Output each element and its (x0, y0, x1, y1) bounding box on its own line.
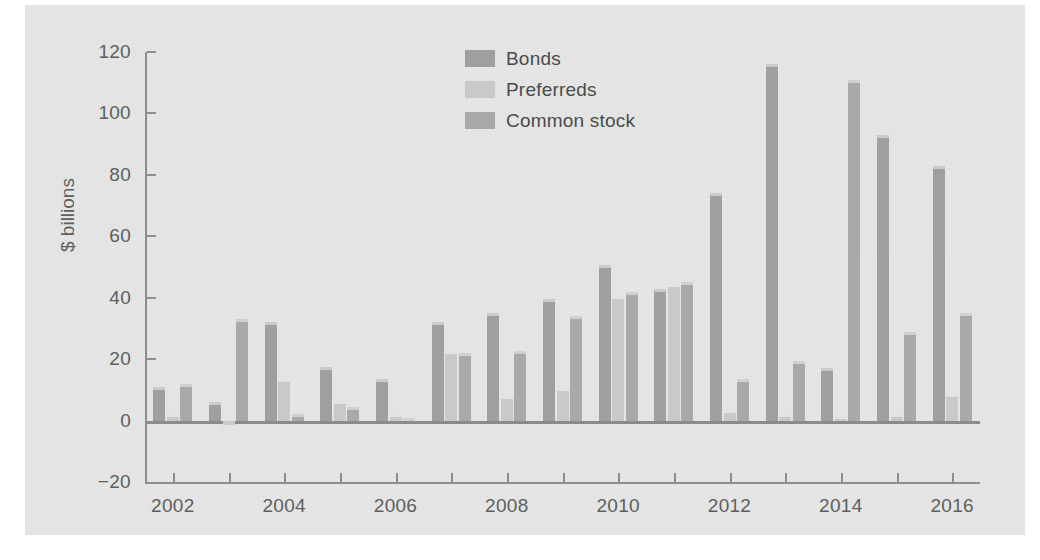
bar-bonds-2015 (877, 135, 889, 421)
x-tick-mark (396, 473, 398, 482)
legend-label-common-stock: Common stock (506, 110, 635, 132)
y-tick-mark (147, 358, 156, 360)
legend-item-common-stock[interactable]: Common stock (465, 105, 635, 136)
x-tick-label: 2006 (374, 495, 417, 517)
bar-preferreds-2016 (946, 394, 958, 420)
bar-common-stock-2006 (403, 418, 415, 421)
bar-common-stock-2012 (737, 379, 749, 420)
y-tick-label: 120 (25, 41, 131, 63)
y-tick-label: −20 (25, 471, 131, 493)
bar-preferreds-2008 (501, 396, 513, 421)
x-tick-mark (730, 473, 732, 482)
x-tick-mark (173, 473, 175, 482)
y-axis-label: $ billions (57, 178, 79, 252)
bar-common-stock-2005 (347, 407, 359, 421)
x-tick-label: 2012 (708, 495, 751, 517)
bar-bonds-2005 (320, 367, 332, 421)
bar-bonds-2003 (209, 402, 221, 420)
x-tick-mark (897, 473, 899, 482)
bar-bonds-2011 (654, 289, 666, 421)
bar-common-stock-2003 (236, 319, 248, 420)
bar-common-stock-2007 (459, 353, 471, 421)
bar-preferreds-2014 (835, 416, 847, 421)
bar-bonds-2002 (153, 387, 165, 421)
bar-bonds-2004 (265, 322, 277, 420)
bar-preferreds-2007 (445, 351, 457, 420)
bar-common-stock-2004 (292, 414, 304, 420)
x-tick-mark (284, 473, 286, 482)
bar-preferreds-2015 (891, 414, 903, 420)
x-tick-label: 2002 (151, 495, 194, 517)
x-tick-mark (618, 473, 620, 482)
x-axis (145, 482, 980, 484)
legend-swatch-preferreds (465, 81, 495, 98)
x-tick-mark (952, 473, 954, 482)
y-tick-label: 100 (25, 102, 131, 124)
x-tick-mark (674, 473, 676, 482)
bar-bonds-2016 (933, 166, 945, 421)
y-tick-label: 20 (25, 348, 131, 370)
bar-preferreds-2003 (223, 421, 235, 426)
bar-bonds-2014 (821, 368, 833, 420)
bar-bonds-2008 (487, 313, 499, 421)
zero-baseline (145, 421, 980, 424)
x-tick-label: 2004 (262, 495, 305, 517)
y-tick-mark (147, 297, 156, 299)
bar-preferreds-2011 (668, 284, 680, 421)
x-tick-mark (340, 473, 342, 482)
bar-common-stock-2009 (570, 316, 582, 420)
bar-common-stock-2013 (793, 361, 805, 421)
legend-item-bonds[interactable]: Bonds (465, 43, 635, 74)
bar-preferreds-2004 (278, 379, 290, 420)
bar-common-stock-2016 (960, 313, 972, 421)
bar-common-stock-2011 (681, 282, 693, 420)
bar-preferreds-2002 (167, 414, 179, 420)
bar-preferreds-2009 (557, 388, 569, 420)
chart-legend: Bonds Preferreds Common stock (465, 43, 635, 136)
y-tick-label: 0 (25, 410, 131, 432)
x-tick-mark (841, 473, 843, 482)
x-tick-mark (229, 473, 231, 482)
bar-preferreds-2006 (390, 414, 402, 420)
y-tick-label: 40 (25, 287, 131, 309)
y-tick-mark (147, 174, 156, 176)
bar-common-stock-2015 (904, 332, 916, 421)
y-tick-mark (147, 112, 156, 114)
bar-common-stock-2014 (848, 80, 860, 421)
bar-bonds-2012 (710, 193, 722, 420)
x-tick-label: 2010 (596, 495, 639, 517)
bar-bonds-2007 (432, 322, 444, 420)
x-tick-label: 2016 (930, 495, 973, 517)
x-tick-mark (507, 473, 509, 482)
x-tick-label: 2008 (485, 495, 528, 517)
y-tick-mark (147, 235, 156, 237)
bar-preferreds-2010 (612, 296, 624, 420)
bar-bonds-2006 (376, 379, 388, 420)
x-tick-mark (451, 473, 453, 482)
bar-preferreds-2013 (779, 414, 791, 420)
legend-swatch-common-stock (465, 112, 495, 129)
legend-label-preferreds: Preferreds (506, 79, 597, 101)
bar-common-stock-2010 (626, 292, 638, 421)
bar-bonds-2009 (543, 299, 555, 420)
bar-common-stock-2008 (514, 351, 526, 420)
chart-figure: −200204060801001202002200420062008201020… (25, 5, 1025, 535)
y-axis (145, 52, 147, 482)
x-tick-label: 2014 (819, 495, 862, 517)
x-tick-mark (785, 473, 787, 482)
bar-common-stock-2002 (180, 384, 192, 421)
bar-bonds-2013 (766, 64, 778, 420)
x-tick-mark (563, 473, 565, 482)
y-tick-mark (147, 51, 156, 53)
legend-item-preferreds[interactable]: Preferreds (465, 74, 635, 105)
legend-swatch-bonds (465, 50, 495, 67)
bar-preferreds-2012 (724, 410, 736, 421)
legend-label-bonds: Bonds (506, 48, 561, 70)
bar-bonds-2010 (599, 265, 611, 420)
bar-preferreds-2005 (334, 401, 346, 421)
